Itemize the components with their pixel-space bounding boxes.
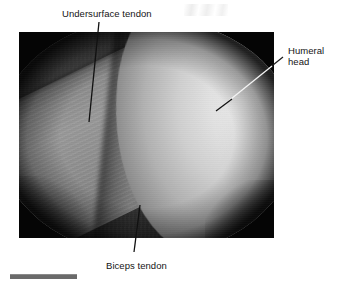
scope-field (19, 32, 274, 238)
label-humeral-head: Humeral head (288, 45, 340, 67)
label-humeral-head-line2: head (288, 56, 340, 67)
scan-artifact (184, 4, 228, 16)
arthroscopic-photo (19, 32, 274, 238)
scale-bar (10, 274, 77, 279)
label-biceps-tendon: Biceps tendon (106, 260, 167, 271)
photo-inner (19, 32, 274, 238)
label-undersurface-tendon: Undersurface tendon (62, 8, 152, 19)
label-humeral-head-line1: Humeral (288, 45, 340, 56)
figure-canvas: Undersurface tendon Humeral head Biceps … (0, 0, 346, 287)
photo-grain (19, 32, 274, 238)
